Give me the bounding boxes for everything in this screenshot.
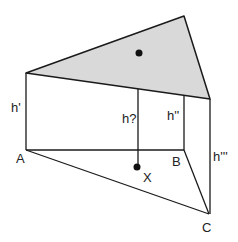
label-h-a: h' [11,101,21,114]
label-a: A [16,152,25,165]
label-h-c: h''' [213,150,228,163]
label-x: X [143,171,152,184]
prism-diagram [0,0,238,242]
edge-bc [184,150,209,214]
edge-ac [26,150,209,214]
label-b: B [172,155,181,168]
top-face [26,16,210,99]
point-x [134,164,141,171]
diagram-canvas: h' A h? h'' B h''' X C [0,0,238,242]
top-point [136,50,143,57]
label-c: C [202,221,211,234]
label-h-x: h? [122,112,136,125]
label-h-b: h'' [167,109,179,122]
